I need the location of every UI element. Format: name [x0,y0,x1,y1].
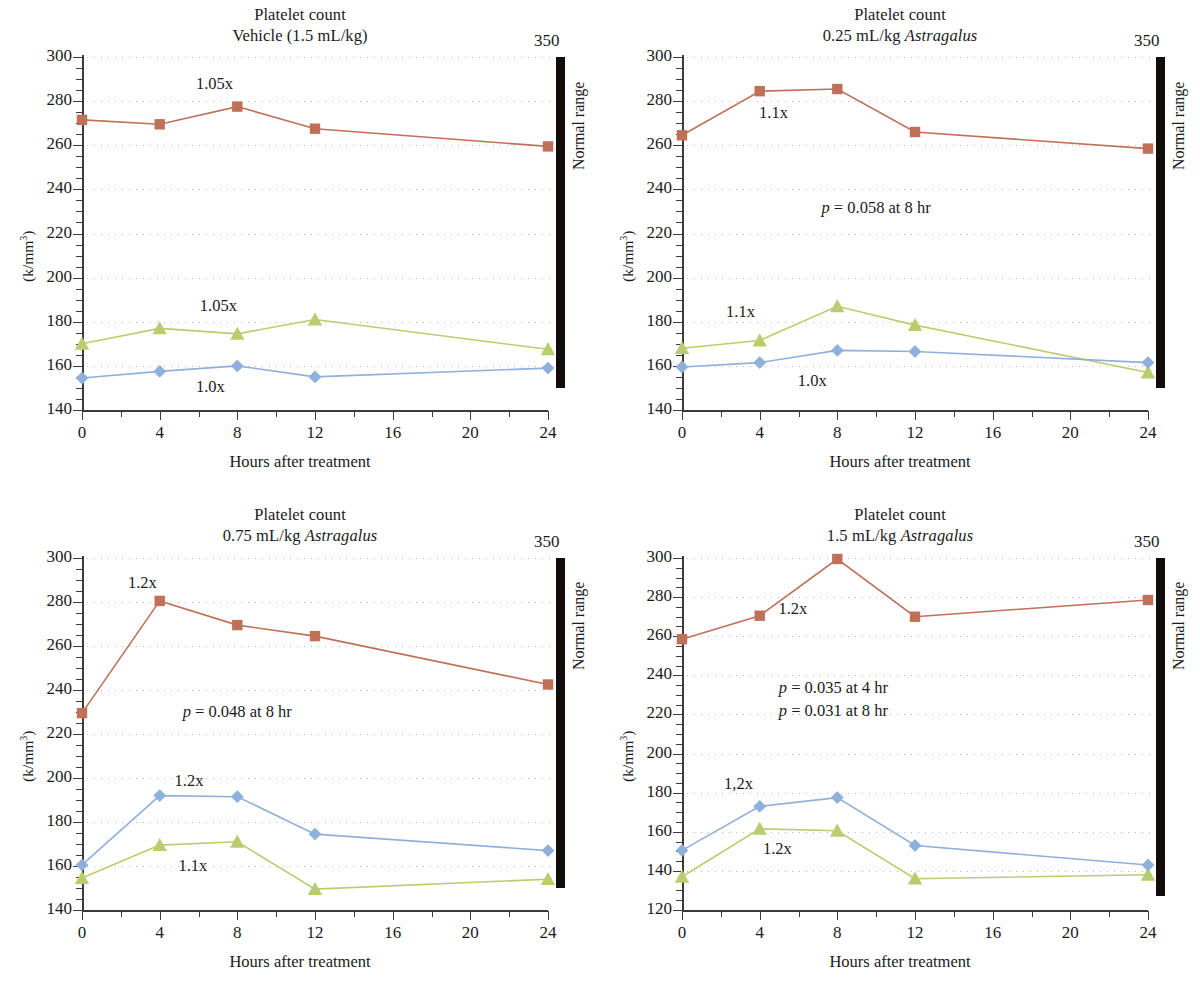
y-tick-minor [76,668,82,669]
gridline [84,866,558,867]
y-tick-label: 140 [14,399,72,419]
x-tick-label: 12 [285,423,345,443]
panel-title: Platelet countVehicle (1.5 mL/kg) [0,4,600,46]
y-tick-major [673,366,682,367]
y-tick-major [73,278,82,279]
x-tick-major [160,911,161,920]
y-tick-minor [76,112,82,113]
y-tick-major [673,322,682,323]
data-point-triangle [1141,868,1155,881]
gridline [84,101,558,102]
data-point-square [232,101,242,111]
y-tick-minor [676,890,682,891]
y-tick-major [673,636,682,637]
y-tick-minor [76,679,82,680]
y-tick-minor [676,724,682,725]
x-tick-major [993,411,994,420]
fold-change-annotation: 1.05x [200,296,237,316]
normal-range-top-value: 350 [1134,31,1160,51]
y-axis-label-exponent: 3 [18,736,29,741]
y-tick-label: 300 [614,46,672,66]
x-tick-major [993,911,994,920]
y-tick-minor [676,355,682,356]
y-tick-major [73,101,82,102]
y-tick-label: 180 [614,311,672,331]
y-tick-label: 240 [614,178,672,198]
panel-025: Platelet count0.25 mL/kg Astragalus14016… [600,0,1200,496]
x-axis-label: Hours after treatment [600,452,1200,472]
x-tick-label: 24 [518,923,578,943]
y-tick-minor [76,90,82,91]
y-tick-major [73,646,82,647]
panel-title-line1: Platelet count [854,505,946,524]
gridline [84,57,558,58]
x-tick-minor [199,411,200,417]
y-tick-minor [76,377,82,378]
gridline [684,189,1158,190]
y-tick-minor [676,200,682,201]
series-layer [0,496,600,993]
gridline [84,602,558,603]
gridline [84,145,558,146]
y-tick-minor [676,178,682,179]
y-tick-label: 280 [14,591,72,611]
y-tick-major [73,822,82,823]
x-tick-minor [276,911,277,917]
y-tick-major [673,675,682,676]
y-tick-major [673,234,682,235]
fold-change-annotation: 1.1x [759,103,788,123]
x-tick-label: 16 [963,423,1023,443]
y-tick-minor [76,712,82,713]
x-tick-minor [354,911,355,917]
figure-grid: Platelet countVehicle (1.5 mL/kg)1401601… [0,0,1200,993]
gridline [684,366,1158,367]
gridline [684,636,1158,637]
x-tick-minor [1032,911,1033,917]
series-line-red-squares [82,107,548,147]
data-point-diamond [753,356,766,369]
y-tick-minor [76,222,82,223]
p-symbol: p [821,198,829,217]
x-tick-major [237,411,238,420]
data-point-diamond [909,345,922,358]
gridline [84,278,558,279]
y-tick-major [73,410,82,411]
data-point-diamond [1142,859,1155,872]
normal-range-label: Normal range [1170,82,1188,170]
y-tick-label: 160 [614,355,672,375]
y-tick-major [73,57,82,58]
fold-change-annotation: 1,2x [724,774,753,794]
y-tick-minor [76,256,82,257]
data-point-diamond [309,371,322,384]
y-tick-minor [76,701,82,702]
data-point-square [755,611,765,621]
y-tick-minor [76,178,82,179]
panel-subtitle: 0.25 mL/kg Astragalus [600,25,1200,46]
y-tick-minor [676,851,682,852]
y-tick-minor [676,90,682,91]
series-line-blue-diamonds [82,366,548,378]
x-tick-minor [799,411,800,417]
x-tick-label: 8 [807,423,867,443]
gridline [684,597,1158,598]
y-axis-label-text: (k/mm [619,741,636,782]
data-point-triangle [753,333,767,346]
y-tick-major [673,832,682,833]
x-tick-major [82,411,83,420]
y-tick-label: 280 [614,90,672,110]
y-tick-major [673,910,682,911]
y-tick-label: 220 [614,703,672,723]
gridline [84,822,558,823]
p-value-annotation: p = 0.031 at 8 hr [779,701,888,721]
y-tick-major [73,910,82,911]
normal-range-bar [1156,57,1165,388]
y-axis-line [82,556,84,912]
data-point-square [155,596,165,606]
y-tick-label: 260 [614,134,672,154]
y-tick-minor [76,789,82,790]
gridline [84,189,558,190]
y-tick-minor [676,578,682,579]
data-point-square [232,620,242,630]
y-tick-minor [676,156,682,157]
y-axis-label-close: ) [19,730,36,735]
